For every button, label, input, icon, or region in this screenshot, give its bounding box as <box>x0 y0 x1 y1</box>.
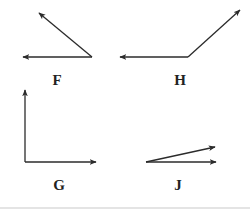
vector-figures <box>0 0 250 207</box>
vector-arrow-up-right-shallow <box>146 147 215 162</box>
figure-g <box>25 90 96 162</box>
figure-h <box>120 10 240 57</box>
figure-label-h: H <box>174 73 186 88</box>
vector-arrow-up-left <box>39 13 92 57</box>
figure-label-f: F <box>52 73 61 88</box>
figure-label-j: J <box>174 178 182 193</box>
figure-label-g: G <box>53 178 65 193</box>
bottom-divider <box>0 207 250 209</box>
vector-diagram: F H G J <box>0 0 250 207</box>
figure-j <box>146 147 216 162</box>
vector-arrow-up-right <box>188 10 240 57</box>
figure-f <box>23 13 92 57</box>
